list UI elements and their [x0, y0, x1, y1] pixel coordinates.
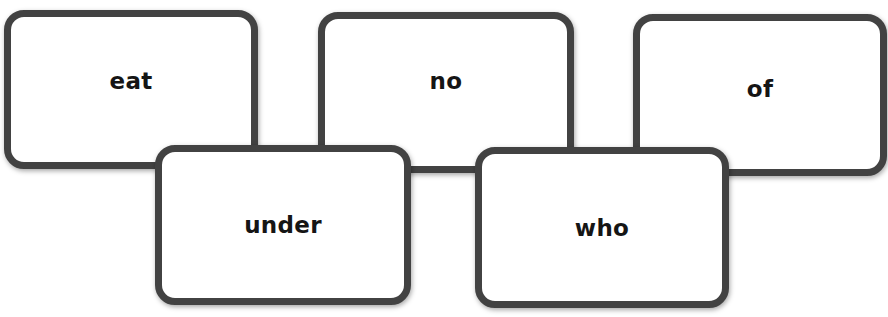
word-card-under[interactable]: under — [155, 145, 411, 305]
word-card-who[interactable]: who — [475, 147, 729, 308]
card-word: eat — [109, 68, 152, 94]
card-word: who — [575, 215, 629, 241]
card-word: under — [244, 212, 322, 238]
card-word: of — [747, 76, 773, 102]
card-word: no — [430, 68, 463, 94]
